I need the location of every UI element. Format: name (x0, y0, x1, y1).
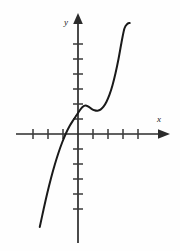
axes-group (16, 13, 170, 243)
cartesian-plot: y x (0, 0, 180, 251)
y-axis-arrowhead (73, 13, 83, 24)
cubic-curve (40, 23, 130, 227)
graph-figure: y x (0, 0, 180, 251)
x-axis-label: x (156, 114, 161, 124)
x-axis-arrowhead (158, 129, 170, 139)
y-axis-label: y (63, 17, 68, 27)
